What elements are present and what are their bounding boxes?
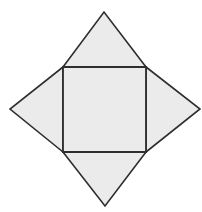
base-square — [63, 67, 146, 152]
pyramid-net-diagram — [0, 0, 202, 212]
left-face-triangle — [10, 67, 63, 152]
pyramid-net-svg — [0, 0, 202, 212]
right-face-triangle — [146, 67, 200, 152]
bottom-face-triangle — [63, 152, 146, 206]
top-face-triangle — [63, 12, 146, 67]
